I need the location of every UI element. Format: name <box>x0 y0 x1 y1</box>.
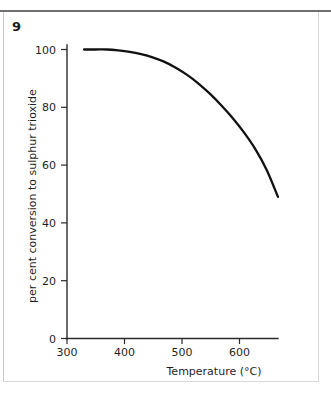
y-tick-label-100: 100 <box>35 44 56 57</box>
y-axis-title: per cent conversion to sulphur trioxide <box>26 89 39 303</box>
x-tick-label-400: 400 <box>114 346 135 359</box>
x-tick-label-500: 500 <box>172 346 193 359</box>
x-axis: 300 400 500 600 <box>57 339 279 360</box>
y-axis: 0 20 40 60 80 100 <box>35 44 67 346</box>
y-tick-label-0: 0 <box>49 333 56 346</box>
y-tick-label-20: 20 <box>42 275 56 288</box>
y-tick-label-60: 60 <box>42 159 56 172</box>
x-axis-title: Temperature (°C) <box>166 365 262 378</box>
y-tick-label-80: 80 <box>42 101 56 114</box>
conversion-vs-temperature-chart: 0 20 40 60 80 100 300 400 500 600 Temper… <box>0 0 331 394</box>
figure-page: 9 0 20 40 60 80 100 300 400 500 6 <box>0 0 331 394</box>
x-tick-label-600: 600 <box>229 346 250 359</box>
y-tick-label-40: 40 <box>42 217 56 230</box>
conversion-curve <box>84 49 278 196</box>
x-tick-label-300: 300 <box>57 346 78 359</box>
